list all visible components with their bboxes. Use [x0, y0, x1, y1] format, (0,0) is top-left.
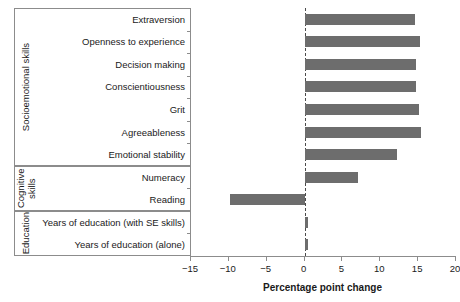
- category-label: Years of education (with SE skills): [42, 215, 185, 229]
- bar: [305, 149, 397, 160]
- x-axis: [190, 256, 455, 257]
- bar: [305, 172, 359, 183]
- y-axis-tick: [187, 211, 191, 212]
- bar: [305, 239, 308, 250]
- x-axis-tick: [228, 256, 229, 261]
- category-label: Openness to experience: [82, 35, 185, 49]
- y-axis-tick: [187, 166, 191, 167]
- category-label: Numeracy: [142, 170, 185, 184]
- bar: [230, 194, 305, 205]
- y-axis-tick: [187, 76, 191, 77]
- bar: [305, 59, 416, 70]
- x-axis-tick-label: −5: [260, 263, 271, 274]
- x-axis-tick-label: 15: [412, 263, 423, 274]
- category-label: Agreeableness: [122, 125, 185, 139]
- group-label-text: Cognitive skills: [15, 167, 37, 210]
- plot-area: [190, 8, 455, 256]
- y-axis-tick: [187, 143, 191, 144]
- bar: [305, 36, 420, 47]
- x-axis-tick: [266, 256, 267, 261]
- bar: [305, 127, 422, 138]
- category-label: Decision making: [115, 57, 185, 71]
- y-axis-tick: [187, 188, 191, 189]
- x-axis-tick: [341, 256, 342, 261]
- group-label-text: Education: [20, 212, 31, 254]
- group-label-cognitive-skills: Cognitive skills: [14, 166, 36, 211]
- x-axis-tick-label: −15: [182, 263, 198, 274]
- y-axis-tick: [187, 53, 191, 54]
- x-axis-tick-label: −10: [220, 263, 236, 274]
- y-axis-tick: [187, 31, 191, 32]
- y-axis-tick: [187, 233, 191, 234]
- x-axis-label: Percentage point change: [190, 282, 455, 293]
- category-label: Years of education (alone): [74, 238, 185, 252]
- category-label: Emotional stability: [108, 148, 185, 162]
- group-label-education: Education: [14, 211, 36, 256]
- x-axis-tick: [190, 256, 191, 261]
- category-label: Conscientiousness: [105, 80, 185, 94]
- x-axis-tick: [379, 256, 380, 261]
- bar: [305, 14, 416, 25]
- x-axis-tick-label: 10: [374, 263, 385, 274]
- category-label: Grit: [170, 102, 185, 116]
- bar-chart: Socioemotional skills Cognitive skills E…: [0, 0, 460, 302]
- group-label-socioemotional-skills: Socioemotional skills: [14, 8, 36, 166]
- x-axis-tick-label: 0: [301, 263, 306, 274]
- y-axis-tick: [187, 98, 191, 99]
- group-label-text: Socioemotional skills: [20, 43, 31, 131]
- bar: [305, 81, 416, 92]
- x-axis-tick-label: 5: [339, 263, 344, 274]
- y-axis-tick: [187, 121, 191, 122]
- x-axis-tick-label: 20: [450, 263, 460, 274]
- category-label: Reading: [150, 193, 185, 207]
- x-axis-tick: [417, 256, 418, 261]
- category-label: Extraversion: [132, 12, 185, 26]
- bar: [305, 217, 308, 228]
- bar: [305, 104, 419, 115]
- x-axis-tick: [304, 256, 305, 261]
- x-axis-tick: [455, 256, 456, 261]
